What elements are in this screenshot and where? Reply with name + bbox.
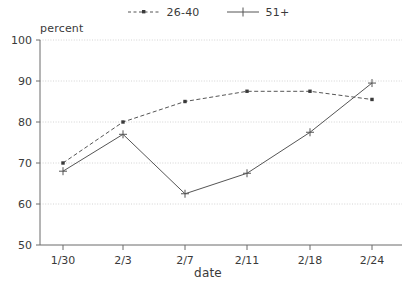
y-axis-ticks: 5060708090100 (11, 34, 40, 252)
line-chart: 26-40 51+ percent 5060708090100 1/302/32… (0, 0, 416, 292)
axis-lines (40, 40, 402, 245)
x-axis-ticks: 1/302/32/72/112/182/24 (51, 245, 385, 267)
data-point (121, 120, 124, 123)
svg-text:80: 80 (18, 116, 32, 129)
data-point (245, 90, 248, 93)
plot-area: 5060708090100 1/302/32/72/112/182/24 (0, 0, 416, 292)
series-line-51- (63, 83, 372, 194)
data-series-layer (59, 79, 376, 198)
data-point (370, 98, 373, 101)
svg-text:90: 90 (18, 75, 32, 88)
svg-text:70: 70 (18, 157, 32, 170)
series-line-26-40 (63, 91, 372, 163)
x-axis-title: date (0, 266, 416, 280)
svg-text:100: 100 (11, 34, 32, 47)
data-point (183, 100, 186, 103)
svg-text:50: 50 (18, 239, 32, 252)
data-point (308, 90, 311, 93)
data-point (61, 161, 64, 164)
svg-text:60: 60 (18, 198, 32, 211)
gridlines (40, 40, 402, 204)
